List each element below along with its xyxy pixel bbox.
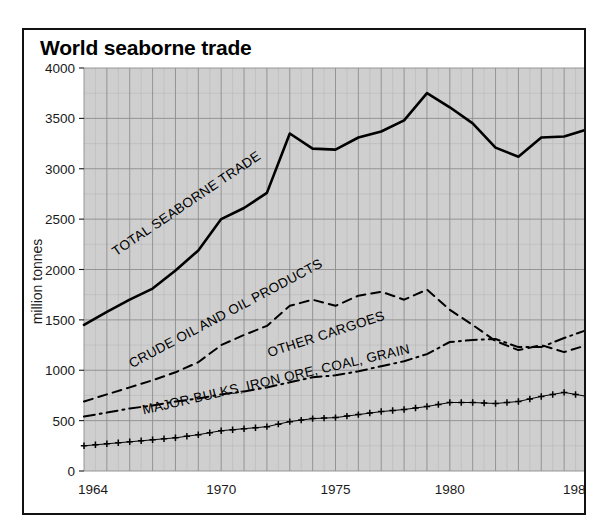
y-axis-tick-label: 2500 (45, 212, 75, 227)
y-axis-tick-label: 500 (52, 414, 75, 429)
y-axis-tick-label: 3000 (45, 162, 75, 177)
y-axis-tick-label: 2000 (45, 263, 75, 278)
x-axis-tick-label: 1970 (206, 482, 236, 497)
y-axis-tick-label: 3500 (45, 111, 75, 126)
y-axis-title: million tonnes (29, 239, 45, 325)
y-axis-tick-label: 1000 (45, 363, 75, 378)
x-axis-tick-label: 1964 (78, 482, 109, 497)
x-axis-tick-label: 1986 (563, 482, 584, 497)
y-axis-tick-label: 0 (67, 464, 75, 479)
y-axis-tick-label: 1500 (45, 313, 75, 328)
y-axis-tick-label: 4000 (45, 61, 75, 76)
chart-plot-area: 0500100015002000250030003500400019641970… (24, 30, 584, 513)
x-axis-tick-label: 1980 (435, 482, 465, 497)
x-axis-tick-label: 1975 (320, 482, 350, 497)
chart-figure: World seaborne trade 0500100015002000250… (22, 28, 586, 515)
